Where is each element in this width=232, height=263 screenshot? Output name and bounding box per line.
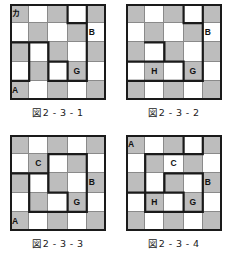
figure-panel-4: ACBHG 図2 - 3 - 4 (116, 131, 232, 263)
cell-r4-c0: A (10, 81, 29, 100)
cell-label-C: C (164, 154, 182, 173)
cell-r3-c1 (29, 62, 48, 81)
cell-r0-c0 (126, 4, 145, 23)
cell-r1-c3 (68, 23, 87, 42)
cell-r2-c0 (10, 173, 29, 192)
cell-r0-c1 (29, 4, 48, 23)
grid-cells-4: ACBHG (126, 135, 222, 231)
cell-r4-c4 (87, 212, 106, 231)
cell-label-B: B (89, 23, 95, 42)
grid-2: BHG (126, 4, 222, 100)
cell-r3-c0 (126, 62, 145, 81)
cell-r4-c2 (164, 212, 183, 231)
cell-r4-c2 (48, 212, 67, 231)
cell-r2-c2 (164, 42, 183, 61)
cell-r3-c0 (10, 62, 29, 81)
figure-caption-1: 図2 - 3 - 1 (32, 105, 83, 119)
cell-r4-c1 (29, 212, 48, 231)
cell-r0-c4 (203, 4, 222, 23)
cell-r1-c4: B (203, 23, 222, 42)
figure-caption-2: 図2 - 3 - 2 (148, 105, 199, 119)
cell-r2-c4: B (203, 173, 222, 192)
cell-r4-c1 (29, 81, 48, 100)
cell-r1-c0 (126, 154, 145, 173)
grid-cells-1: カBGA (10, 4, 106, 100)
cell-r1-c0 (126, 23, 145, 42)
cell-r1-c1 (29, 23, 48, 42)
cell-r3-c3: G (68, 193, 87, 212)
cell-r1-c0 (10, 23, 29, 42)
cell-r0-c2 (164, 135, 183, 154)
cell-r2-c3 (68, 42, 87, 61)
figure-caption-3: 図2 - 3 - 3 (32, 236, 83, 250)
cell-r3-c0 (10, 193, 29, 212)
cell-label-C: C (29, 154, 47, 173)
cell-r2-c4 (203, 42, 222, 61)
cell-r4-c2 (164, 81, 183, 100)
cell-r4-c0 (126, 81, 145, 100)
cell-r2-c2 (164, 173, 183, 192)
cell-r4-c3 (68, 212, 87, 231)
cell-label-A: A (128, 135, 134, 154)
cell-r3-c2 (48, 62, 67, 81)
figure-panel-3: CBGA 図2 - 3 - 3 (0, 131, 116, 263)
cell-r4-c1 (145, 81, 164, 100)
cell-label-B: B (205, 23, 211, 42)
cell-r1-c3 (184, 23, 203, 42)
cell-r4-c3 (184, 81, 203, 100)
cell-label-H: H (145, 62, 163, 81)
cell-r1-c1: C (29, 154, 48, 173)
cell-r4-c0: A (10, 212, 29, 231)
figure-panel-2: BHG 図2 - 3 - 2 (116, 0, 232, 131)
cell-r2-c1 (29, 42, 48, 61)
cell-r2-c1 (145, 173, 164, 192)
cell-r4-c1 (145, 212, 164, 231)
cell-label-G: G (184, 62, 202, 81)
cell-r4-c4 (203, 81, 222, 100)
cell-r4-c4 (203, 212, 222, 231)
cell-r3-c4 (203, 62, 222, 81)
cell-r4-c2 (48, 81, 67, 100)
figure-panel-1: カBGA 図2 - 3 - 1 (0, 0, 116, 131)
cell-r0-c2 (48, 4, 67, 23)
cell-r2-c1 (29, 173, 48, 192)
cell-r4-c3 (184, 212, 203, 231)
cell-r2-c0 (10, 42, 29, 61)
cell-r2-c0 (126, 173, 145, 192)
cell-r3-c1: H (145, 193, 164, 212)
cell-r2-c0 (126, 42, 145, 61)
cell-r0-c0: カ (10, 4, 29, 23)
cell-r0-c4 (203, 135, 222, 154)
cell-label-B: B (89, 173, 95, 192)
cell-r0-c1 (145, 135, 164, 154)
cell-r3-c1: H (145, 62, 164, 81)
cell-r1-c0 (10, 154, 29, 173)
cell-label-G: G (184, 193, 202, 212)
cell-r0-c3 (184, 135, 203, 154)
cell-r3-c0 (126, 193, 145, 212)
cell-r3-c2 (48, 193, 67, 212)
cell-label-G: G (68, 62, 86, 81)
cell-label-カ: カ (12, 4, 20, 23)
cell-r3-c3: G (184, 62, 203, 81)
cell-r3-c3: G (68, 62, 87, 81)
cell-r0-c1 (145, 4, 164, 23)
cell-r1-c1 (145, 154, 164, 173)
cell-r2-c4 (87, 42, 106, 61)
cell-r0-c4 (87, 4, 106, 23)
cell-label-A: A (12, 212, 18, 231)
cell-r4-c4 (87, 81, 106, 100)
cell-r1-c4 (87, 154, 106, 173)
cell-r2-c2 (48, 42, 67, 61)
cell-r1-c2 (164, 23, 183, 42)
cell-r2-c3 (184, 173, 203, 192)
cell-r1-c2: C (164, 154, 183, 173)
cell-r3-c2 (164, 62, 183, 81)
cell-label-G: G (68, 193, 86, 212)
cell-r0-c1 (29, 135, 48, 154)
grid-1: カBGA (10, 4, 106, 100)
cell-r4-c0 (126, 212, 145, 231)
cell-r0-c3 (184, 4, 203, 23)
cell-label-A: A (12, 81, 18, 100)
cell-r1-c3 (68, 154, 87, 173)
